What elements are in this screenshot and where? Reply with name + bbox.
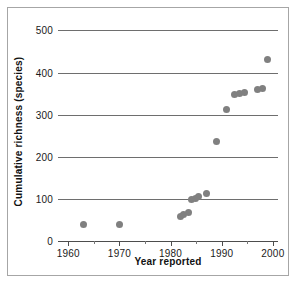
gridline-100 (58, 199, 278, 200)
plot-area: 0100200300400500 19601970198019902000 (58, 22, 278, 241)
data-point (241, 89, 248, 96)
data-point (203, 190, 210, 197)
y-tick-label-200: 200 (36, 151, 53, 162)
y-tick-label-400: 400 (36, 67, 53, 78)
data-point (80, 221, 87, 228)
x-tick-1980 (171, 241, 172, 246)
x-tick-1990 (222, 241, 223, 246)
y-tick-label-500: 500 (36, 25, 53, 36)
x-minor-tick-1965 (94, 241, 95, 244)
x-minor-tick-1985 (196, 241, 197, 244)
x-tick-2000 (273, 241, 274, 246)
data-point (223, 106, 230, 113)
x-minor-tick-1975 (145, 241, 146, 244)
data-point (195, 193, 202, 200)
y-tick-label-100: 100 (36, 193, 53, 204)
data-point (116, 221, 123, 228)
x-tick-1970 (119, 241, 120, 246)
x-axis-line (58, 241, 278, 242)
gridline-500 (58, 30, 278, 31)
y-axis-title: Cumulative richness (species) (14, 57, 25, 207)
gridline-200 (58, 157, 278, 158)
y-axis-title-wrap: Cumulative richness (species) (12, 22, 26, 241)
gridline-400 (58, 73, 278, 74)
data-point (259, 85, 266, 92)
x-minor-tick-1995 (247, 241, 248, 244)
y-tick-label-0: 0 (47, 236, 53, 247)
data-point (213, 138, 220, 145)
figure-container: 0100200300400500 19601970198019902000 Ye… (0, 0, 296, 283)
x-axis-title: Year reported (58, 256, 278, 267)
data-point (264, 56, 271, 63)
data-point (185, 209, 192, 216)
x-tick-1960 (68, 241, 69, 246)
y-tick-label-300: 300 (36, 109, 53, 120)
gridline-300 (58, 115, 278, 116)
plot-inner: 0100200300400500 19601970198019902000 (58, 22, 278, 241)
